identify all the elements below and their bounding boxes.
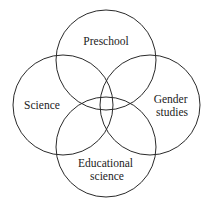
educational-science-label-line-2: science	[90, 170, 124, 182]
preschool-label-line-1: Preschool	[83, 35, 128, 47]
educational-science-circle	[56, 97, 156, 197]
educational-science-label-line-1: Educational	[78, 157, 133, 169]
gender-studies-circle	[100, 55, 200, 155]
venn-diagram: Preschool Science Gender studies Educati…	[0, 0, 208, 210]
preschool-circle	[56, 10, 156, 110]
science-label-line-1: Science	[24, 99, 60, 111]
gender-studies-label-line-2: studies	[156, 106, 188, 118]
science-label: Science	[24, 99, 60, 111]
educational-science-label: Educational science	[78, 157, 136, 182]
gender-studies-label: Gender studies	[154, 93, 191, 118]
preschool-label: Preschool	[83, 35, 128, 47]
gender-studies-label-line-1: Gender	[154, 93, 188, 105]
